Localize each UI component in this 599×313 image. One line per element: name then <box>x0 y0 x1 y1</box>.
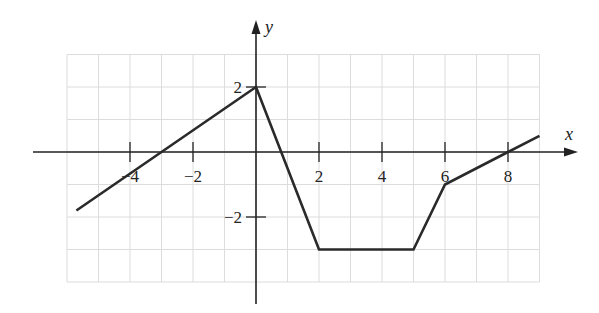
y-axis-label: y <box>263 17 273 37</box>
x-axis-label: x <box>564 124 573 144</box>
y-axis-arrow-icon <box>252 20 261 34</box>
y-tick-label: 2 <box>234 78 243 97</box>
x-tick-label: 8 <box>504 167 513 186</box>
x-axis-arrow-icon <box>564 148 578 157</box>
x-tick-label: 4 <box>378 167 387 186</box>
x-tick-label: 2 <box>315 167 324 186</box>
function-graph: −4−224682−2 x y <box>0 0 599 313</box>
y-tick-label: −2 <box>224 208 242 227</box>
axes <box>33 20 578 304</box>
x-tick-label: −2 <box>184 167 202 186</box>
function-line <box>76 87 539 250</box>
